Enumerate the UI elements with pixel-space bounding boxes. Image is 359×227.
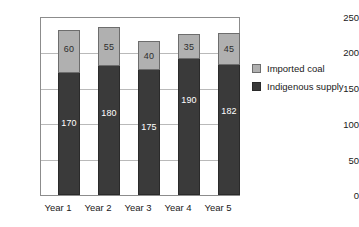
bar-segment-imported-coal: 60: [58, 30, 80, 73]
x-axis-tick-label-year-1: Year 1: [36, 202, 80, 213]
legend-swatch-icon: [252, 64, 261, 73]
bar-segment-indigenous-supply: 175: [138, 70, 160, 195]
bar-value-label: 180: [99, 108, 119, 118]
legend-item-imported-coal: Imported coal: [252, 61, 344, 76]
stacked-bar-chart: 250 200 150 100 50 0 60 170: [0, 0, 359, 227]
bar-segment-imported-coal: 55: [98, 27, 120, 66]
bar-value-label: 175: [139, 122, 159, 132]
chart-legend: Imported coal Indigenous supply: [252, 61, 344, 97]
bar-value-label: 170: [59, 118, 79, 128]
bar-group-year-4: 35 190: [178, 34, 200, 195]
legend-item-label: Indigenous supply: [267, 81, 344, 92]
legend-swatch-icon: [252, 82, 261, 91]
bar-segment-imported-coal: 40: [138, 41, 160, 70]
bar-value-label: 40: [139, 51, 159, 61]
bar-segment-imported-coal: 45: [218, 33, 240, 65]
x-axis-tick-label-year-5: Year 5: [196, 202, 240, 213]
bar-value-label: 35: [179, 42, 199, 52]
bar-value-label: 45: [219, 44, 239, 54]
legend-item-indigenous-supply: Indigenous supply: [252, 79, 344, 94]
x-axis-tick-label-year-4: Year 4: [156, 202, 200, 213]
bar-value-label: 60: [59, 44, 79, 54]
bar-segment-indigenous-supply: 182: [218, 65, 240, 195]
bar-group-year-5: 45 182: [218, 33, 240, 195]
bar-value-label: 55: [99, 42, 119, 52]
bar-group-year-1: 60 170: [58, 30, 80, 195]
x-axis-tick-label-year-3: Year 3: [116, 202, 160, 213]
bar-group-year-3: 40 175: [138, 41, 160, 195]
y-axis-tick-label: 200: [325, 48, 359, 58]
bar-value-label: 190: [179, 95, 199, 105]
bar-segment-indigenous-supply: 170: [58, 73, 80, 195]
y-axis-tick-label: 0: [325, 191, 359, 201]
x-axis-tick-label-year-2: Year 2: [76, 202, 120, 213]
legend-item-label: Imported coal: [267, 63, 325, 74]
bar-segment-indigenous-supply: 180: [98, 66, 120, 195]
bar-segment-indigenous-supply: 190: [178, 59, 200, 195]
y-axis-tick-label: 50: [325, 156, 359, 166]
y-axis-tick-label: 100: [325, 120, 359, 130]
y-axis-tick-label: 250: [325, 13, 359, 23]
bar-segment-imported-coal: 35: [178, 34, 200, 59]
bar-value-label: 182: [219, 106, 239, 116]
bar-group-year-2: 55 180: [98, 27, 120, 195]
plot-area: 60 170 55 180 40: [40, 17, 240, 196]
